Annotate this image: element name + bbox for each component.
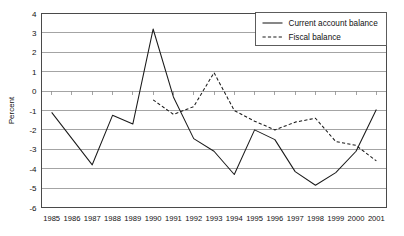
series-line-fiscal-balance <box>153 73 376 161</box>
x-axis-tick-label: 1994 <box>226 214 243 223</box>
x-axis-tick-label: 2001 <box>368 214 385 223</box>
y-axis-tick-label: -5 <box>29 184 37 193</box>
y-axis-tick-label: -3 <box>29 145 37 154</box>
y-axis-tick-label: -4 <box>29 165 37 174</box>
y-axis-tick-label: 3 <box>32 29 37 38</box>
y-axis-tick-label: 4 <box>32 10 37 19</box>
zero-axis-ticks-group <box>52 91 377 95</box>
x-axis-tick-label: 1991 <box>165 214 182 223</box>
y-axis-tick-label: 2 <box>32 48 37 57</box>
chart-container: 43210-1-2-3-4-5-6 1985198619871988198919… <box>0 0 404 236</box>
line-chart: 43210-1-2-3-4-5-6 1985198619871988198919… <box>0 0 404 236</box>
x-axis-tick-label: 1985 <box>43 214 60 223</box>
x-axis-tick-labels-group: 1985198619871988198919901991199219931994… <box>43 214 385 223</box>
y-axis-tick-label: -1 <box>29 107 37 116</box>
y-axis-tick-label: -2 <box>29 126 37 135</box>
x-axis-tick-label: 1990 <box>145 214 162 223</box>
y-axis-tick-label: 1 <box>32 68 37 77</box>
x-axis-tick-label: 1987 <box>84 214 101 223</box>
x-axis-tick-label: 1988 <box>104 214 121 223</box>
y-axis-tick-label: 0 <box>32 87 37 96</box>
legend-label: Fiscal balance <box>289 33 342 42</box>
y-axis-tick-label: -6 <box>29 204 37 213</box>
legend-label: Current account balance <box>289 19 379 28</box>
y-axis-tick-labels-group: 43210-1-2-3-4-5-6 <box>29 10 37 213</box>
x-axis-tick-label: 1993 <box>206 214 223 223</box>
x-axis-tick-label: 1998 <box>307 214 324 223</box>
x-axis-tick-label: 1989 <box>124 214 141 223</box>
chart-legend: Current account balanceFiscal balance <box>256 13 387 46</box>
x-axis-tick-label: 2000 <box>348 214 365 223</box>
x-axis-tick-label: 1986 <box>63 214 80 223</box>
x-axis-tick-label: 1996 <box>266 214 283 223</box>
x-axis-tick-label: 1999 <box>327 214 344 223</box>
x-axis-tick-label: 1997 <box>287 214 304 223</box>
x-axis-tick-label: 1992 <box>185 214 202 223</box>
y-axis-title: Percent <box>7 96 16 124</box>
x-axis-tick-label: 1995 <box>246 214 263 223</box>
